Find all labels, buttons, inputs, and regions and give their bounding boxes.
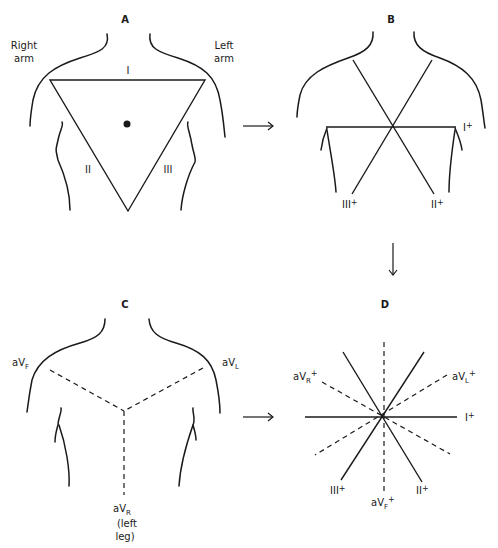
panel-a-label: A bbox=[121, 14, 129, 25]
ecg-lead-diagram: A Right arm Left arm I II III B bbox=[0, 0, 498, 548]
panel-a: A Right arm Left arm I II III bbox=[11, 14, 234, 211]
left-arm-label-line2: arm bbox=[214, 53, 234, 64]
panel-d: D aVR+ aVL+ I+ III+ aVF+ II+ bbox=[293, 299, 476, 511]
arrow-right-icon bbox=[243, 122, 273, 130]
left-leg-note-line1: (left bbox=[117, 518, 137, 529]
left-leg-note-line2: leg) bbox=[115, 531, 134, 542]
panel-b-label: B bbox=[387, 14, 395, 25]
panel-b: B I+ III+ II+ bbox=[297, 14, 485, 210]
right-arm-label-line2: arm bbox=[14, 53, 34, 64]
avf-axis-c bbox=[50, 370, 124, 411]
avr-label-c: aVR bbox=[113, 503, 131, 517]
left-arm-label-line1: Left bbox=[215, 40, 234, 51]
lead-iii-label-a: III bbox=[164, 164, 173, 175]
right-arm-label-line1: Right bbox=[11, 40, 37, 51]
avr-axis-d bbox=[322, 382, 450, 454]
lead-iii-plus-label-d: III+ bbox=[330, 484, 346, 496]
lead-i-plus-label-b: I+ bbox=[463, 121, 473, 133]
lead-ii-plus-label-d: II+ bbox=[416, 484, 429, 496]
lead-ii-plus-label-b: II+ bbox=[431, 198, 444, 210]
avf-label-c: aVF bbox=[12, 357, 29, 371]
arrow-right-icon bbox=[243, 413, 273, 421]
avr-plus-label-d: aVR+ bbox=[293, 369, 318, 385]
lead-iii-axis-d bbox=[341, 352, 424, 480]
heart-dot bbox=[124, 121, 131, 128]
lead-ii-label-a: II bbox=[85, 164, 91, 175]
panel-d-label: D bbox=[381, 299, 389, 310]
avl-label-c: aVL bbox=[222, 357, 239, 371]
torso-outline-b bbox=[297, 32, 485, 192]
avf-plus-label-d: aVF+ bbox=[371, 495, 395, 511]
panel-c-label: C bbox=[121, 299, 128, 310]
avl-axis-c bbox=[124, 368, 203, 411]
arrow-down-icon bbox=[389, 243, 397, 275]
einthoven-triangle bbox=[50, 80, 205, 211]
lead-i-label-a: I bbox=[127, 65, 130, 76]
panel-c: C aVF aVL aVR (left leg) bbox=[12, 299, 239, 542]
lead-i-plus-label-d: I+ bbox=[465, 411, 475, 423]
avl-plus-label-d: aVL+ bbox=[452, 369, 476, 385]
lead-iii-plus-label-b: III+ bbox=[342, 198, 358, 210]
